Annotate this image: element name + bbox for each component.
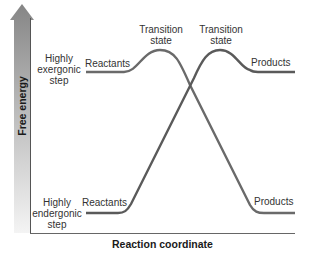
endergonic-line1: Highly bbox=[32, 197, 82, 208]
exergonic-curve bbox=[86, 50, 295, 213]
endergonic-transition-label: Transition state bbox=[196, 24, 246, 46]
endergonic-curve bbox=[86, 50, 295, 213]
endergonic-products-label: Products bbox=[251, 57, 290, 68]
exergonic-line1: Highly bbox=[36, 53, 82, 64]
exergonic-line2: exergonic bbox=[36, 64, 82, 75]
endergonic-reactants-label: Reactants bbox=[82, 197, 127, 208]
exergonic-products-label: Products bbox=[254, 196, 293, 207]
x-axis-title: Reaction coordinate bbox=[112, 238, 213, 250]
exergonic-reactants-label: Reactants bbox=[85, 58, 130, 69]
endergonic-transition-line2: state bbox=[196, 35, 246, 46]
exergonic-step-label: Highly exergonic step bbox=[36, 53, 82, 86]
endergonic-transition-line1: Transition bbox=[196, 24, 246, 35]
exergonic-transition-line2: state bbox=[136, 35, 186, 46]
endergonic-line3: step bbox=[32, 219, 82, 230]
y-axis-title: Free energy bbox=[16, 76, 28, 136]
exergonic-line3: step bbox=[36, 75, 82, 86]
endergonic-step-label: Highly endergonic step bbox=[32, 197, 82, 230]
exergonic-transition-label: Transition state bbox=[136, 24, 186, 46]
exergonic-transition-line1: Transition bbox=[136, 24, 186, 35]
endergonic-line2: endergonic bbox=[32, 208, 82, 219]
